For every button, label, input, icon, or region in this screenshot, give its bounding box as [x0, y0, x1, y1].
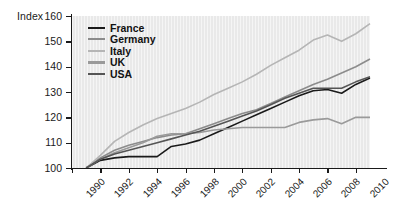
- legend-item-italy[interactable]: Italy: [88, 45, 156, 57]
- x-tick-label: 1990: [84, 176, 108, 200]
- x-tick-label: 2000: [225, 176, 249, 200]
- legend-label: USA: [110, 69, 132, 80]
- y-tick-label: 160: [26, 11, 62, 22]
- y-tick-mark: [66, 67, 71, 68]
- y-tick-mark: [66, 143, 71, 144]
- x-tick-label: 2008: [339, 176, 363, 200]
- y-tick-mark: [66, 92, 71, 93]
- y-tick-mark: [66, 41, 71, 42]
- x-tick-mark: [72, 168, 73, 173]
- legend-label: Germany: [110, 34, 156, 45]
- y-tick-mark: [66, 117, 71, 118]
- x-tick-mark: [100, 168, 101, 173]
- y-tick-label: 130: [26, 87, 62, 98]
- x-tick-mark: [129, 168, 130, 173]
- x-tick-mark: [299, 168, 300, 173]
- x-tick-mark: [356, 168, 357, 173]
- x-tick-label: 2010: [367, 176, 391, 200]
- legend-swatch-icon: [88, 50, 105, 52]
- x-tick-label: 1994: [140, 176, 164, 200]
- y-tick-label: 150: [26, 36, 62, 47]
- legend-item-uk[interactable]: UK: [88, 57, 156, 69]
- y-tick-label: 100: [26, 163, 62, 174]
- series-line-france: [86, 78, 370, 168]
- x-tick-mark: [242, 168, 243, 173]
- y-tick-mark: [66, 168, 71, 169]
- legend-label: Italy: [110, 46, 131, 57]
- legend-swatch-icon: [88, 27, 105, 29]
- x-axis-line: [71, 168, 387, 169]
- x-tick-mark: [214, 168, 215, 173]
- x-tick-label: 2006: [311, 176, 335, 200]
- x-tick-label: 2002: [254, 176, 278, 200]
- legend-label: UK: [110, 57, 125, 68]
- y-tick-label: 140: [26, 61, 62, 72]
- y-axis-line: [71, 14, 72, 170]
- x-tick-label: 2004: [282, 176, 306, 200]
- legend-swatch-icon: [88, 38, 105, 40]
- legend-swatch-icon: [88, 61, 105, 63]
- line-chart: Index 100110120130140150160 199019921994…: [0, 0, 415, 204]
- y-tick-label: 110: [26, 137, 62, 148]
- y-tick-mark: [66, 16, 71, 17]
- legend-item-usa[interactable]: USA: [88, 68, 156, 80]
- legend-swatch-icon: [88, 73, 105, 75]
- legend-label: France: [110, 23, 144, 34]
- x-tick-label: 1998: [197, 176, 221, 200]
- x-tick-mark: [327, 168, 328, 173]
- y-tick-label: 120: [26, 112, 62, 123]
- legend-item-germany[interactable]: Germany: [88, 34, 156, 46]
- x-tick-label: 1996: [169, 176, 193, 200]
- x-tick-mark: [157, 168, 158, 173]
- legend: FranceGermanyItalyUKUSA: [88, 22, 156, 80]
- x-tick-mark: [271, 168, 272, 173]
- legend-item-france[interactable]: France: [88, 22, 156, 34]
- x-tick-mark: [186, 168, 187, 173]
- x-tick-label: 1992: [112, 176, 136, 200]
- series-line-uk: [86, 117, 370, 168]
- series-line-usa: [86, 77, 370, 168]
